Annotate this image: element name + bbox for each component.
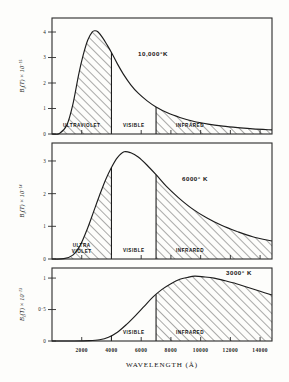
y-axis-title: Bλ(T) × 10−13 [18,288,27,321]
y-axis-title: Bλ(T) × 10−15 [18,59,27,92]
panel-10000k: 12340Bλ(T) × 10−1510,000°KULTRAVIOLETVIS… [18,18,272,137]
y-axis-title: Bλ(T) × 10−14 [18,184,27,217]
temperature-label: 3000° K [226,269,252,276]
blackbody-radiation-figure: 12340Bλ(T) × 10−1510,000°KULTRAVIOLETVIS… [0,0,289,382]
x-tick-label: 10000 [193,347,209,353]
y-tick-label: 2 [43,191,46,197]
y-tick-label: 1 [43,275,46,281]
temperature-label: 6000° K [182,175,208,182]
y-tick-label: 3 [43,158,46,164]
y-tick-label: 1 [43,105,46,111]
x-tick-label: 4000 [105,347,118,353]
x-tick-label: 6000 [135,347,148,353]
y-tick-label: 0·5 [38,306,46,312]
x-axis-title: WAVELENGTH (Å) [126,361,198,369]
x-tick-label: 14000 [252,347,268,353]
band-label: VISIBLE [123,330,145,335]
band-label: INFRARED [176,248,204,253]
y-tick-label: 3 [43,54,46,60]
band-label: ULTRAVIOLET [63,123,101,128]
y-tick-label: 0 [43,338,46,344]
x-axis: 2000400060008000100001200014000WAVELENGT… [75,347,268,369]
band-label: ULTRA [73,243,91,248]
y-tick-label: 4 [43,29,46,35]
y-tick-label: 2 [43,80,46,86]
y-tick-label-zero: 0 [43,131,46,137]
band-fill-infrared [52,276,272,341]
band-label: INFRARED [176,123,204,128]
x-tick-label: 12000 [223,347,239,353]
x-tick-label: 8000 [165,347,178,353]
panel-3000k: 00·51Bλ(T) × 10−133000° KVISIBLEINFRARED [18,268,272,344]
y-tick-label: 1 [43,223,46,229]
band-label: VISIBLE [123,248,145,253]
band-label: VIOLET [72,249,92,254]
x-tick-label: 2000 [75,347,88,353]
panel-6000k: 0123Bλ(T) × 10−146000° KULTRAVIOLETVISIB… [18,143,272,262]
band-label: VISIBLE [123,123,145,128]
figure-svg: 12340Bλ(T) × 10−1510,000°KULTRAVIOLETVIS… [0,0,289,382]
band-label: INFRARED [176,330,204,335]
y-tick-label: 0 [43,256,46,262]
temperature-label: 10,000°K [138,50,168,57]
